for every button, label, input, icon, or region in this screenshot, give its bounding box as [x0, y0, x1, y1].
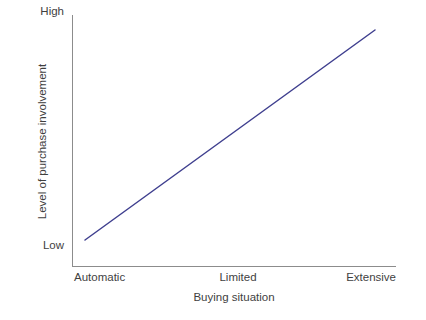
series-line-purchase-involvement	[85, 30, 375, 240]
chart-figure: High Low Level of purchase involvement A…	[0, 0, 426, 320]
x-axis-tick-limited: Limited	[198, 270, 278, 284]
x-axis-title: Buying situation	[72, 290, 396, 304]
x-axis-tick-extensive: Extensive	[310, 270, 396, 284]
x-axis-tick-automatic: Automatic	[74, 270, 125, 284]
